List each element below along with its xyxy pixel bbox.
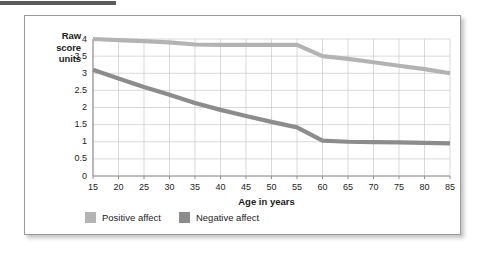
x-axis-tick-label: 80	[412, 183, 438, 192]
x-axis-tick-label: 40	[208, 183, 234, 192]
chart-figure-card: Raw score units 00.511.522.533.54 152025…	[24, 15, 461, 235]
y-axis-tick-label: 2.5	[65, 86, 87, 95]
legend-entry-positive-affect: Positive affect	[85, 212, 161, 223]
chart-legend: Positive affectNegative affect	[85, 212, 259, 223]
y-axis-tick-label: 0.5	[65, 154, 87, 163]
x-axis-tick-label: 85	[437, 183, 463, 192]
x-axis-tick-label: 55	[284, 183, 310, 192]
x-axis-tick-label: 70	[361, 183, 387, 192]
x-axis-tick-label: 45	[233, 183, 259, 192]
y-axis-tick-label: 0	[65, 172, 87, 181]
y-axis-tick-label: 4	[65, 35, 87, 44]
legend-label: Positive affect	[102, 212, 161, 223]
legend-swatch-icon	[85, 212, 96, 223]
x-axis-tick-label: 30	[157, 183, 183, 192]
x-axis-title-text: Age in years	[238, 196, 295, 207]
legend-entry-negative-affect: Negative affect	[179, 212, 259, 223]
x-axis-tick-label: 60	[310, 183, 336, 192]
x-axis-tick-label: 20	[106, 183, 132, 192]
y-axis-tick-label: 1.5	[65, 120, 87, 129]
x-axis-tick-label: 15	[80, 183, 106, 192]
x-axis-tick-label: 65	[335, 183, 361, 192]
y-axis-tick-label: 3.5	[65, 52, 87, 61]
page-top-rule	[0, 1, 116, 5]
y-axis-tick-label: 1	[65, 137, 87, 146]
x-axis-tick-label: 50	[259, 183, 285, 192]
x-axis-tick-label: 25	[131, 183, 157, 192]
y-axis-tick-label: 2	[65, 103, 87, 112]
chart-area: Raw score units 00.511.522.533.54 152025…	[25, 16, 462, 236]
legend-label: Negative affect	[196, 212, 259, 223]
y-axis-tick-label: 3	[65, 69, 87, 78]
x-axis-tick-label: 75	[386, 183, 412, 192]
x-axis-title: Age in years	[25, 196, 462, 207]
legend-swatch-icon	[179, 212, 190, 223]
x-axis-tick-label: 35	[182, 183, 208, 192]
